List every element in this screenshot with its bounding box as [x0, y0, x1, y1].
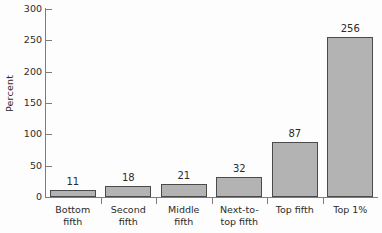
- bar-value-label: 256: [320, 23, 380, 34]
- bar: [161, 184, 207, 197]
- bar-value-label: 18: [98, 172, 158, 183]
- bar: [272, 142, 318, 197]
- y-axis-tick-label: 150: [24, 97, 42, 108]
- y-axis-tick-mark: [45, 166, 52, 167]
- x-axis-category-label: Bottom fifth: [45, 204, 101, 227]
- y-axis-tick-label: 200: [24, 66, 42, 77]
- y-axis-tick-mark: [45, 40, 52, 41]
- bar-value-label: 87: [265, 128, 325, 139]
- x-axis-category-label: Top fifth: [267, 204, 323, 216]
- y-axis-tick-mark: [45, 197, 52, 198]
- y-axis-tick-label: 100: [24, 128, 42, 139]
- bar-value-label: 32: [209, 163, 269, 174]
- bar-chart: Percent 050100150200250300 1118213287256…: [0, 0, 382, 233]
- y-axis-tick-label: 300: [24, 3, 42, 14]
- bar-value-label: 21: [154, 170, 214, 181]
- bar: [327, 37, 373, 197]
- bar: [216, 177, 262, 197]
- y-axis-tick-label: 0: [36, 191, 42, 202]
- y-axis-tick-mark: [45, 9, 52, 10]
- y-axis-tick-mark: [45, 103, 52, 104]
- bar-value-label: 11: [43, 176, 103, 187]
- x-axis-category-label: Next-to- top fifth: [212, 204, 268, 227]
- bar: [50, 190, 96, 197]
- y-axis-tick-mark: [45, 72, 52, 73]
- y-axis-label: Percent: [4, 59, 15, 129]
- x-axis-category-label: Second fifth: [101, 204, 157, 227]
- y-axis-tick-mark: [45, 134, 52, 135]
- y-axis-tick-label: 50: [30, 160, 42, 171]
- x-axis-category-label: Top 1%: [323, 204, 379, 216]
- bar: [105, 186, 151, 197]
- y-axis-tick-label: 250: [24, 34, 42, 45]
- x-axis-category-label: Middle fifth: [156, 204, 212, 227]
